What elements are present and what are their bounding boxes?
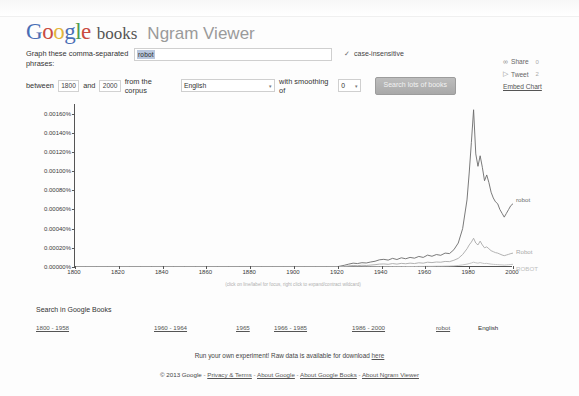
logo-letter-g2: g xyxy=(64,19,75,44)
search-books-language: English xyxy=(478,324,498,331)
y-axis-tick-label: 0.00140% xyxy=(44,130,71,136)
y-axis-tick xyxy=(72,209,75,210)
y-axis-tick xyxy=(72,152,75,153)
books-wordmark[interactable]: books xyxy=(97,24,138,44)
x-axis-tick-label: 1800 xyxy=(67,269,80,275)
corpus-select[interactable]: English ▾ xyxy=(181,79,275,92)
x-axis-tick-label: 1940 xyxy=(374,269,387,275)
logo-letter-o2: o xyxy=(53,19,64,44)
corpus-label: from the corpus xyxy=(125,77,174,95)
page-title: Ngram Viewer xyxy=(147,24,254,44)
search-books-links: 1800 - 19581960 - 196419651966 - 1985198… xyxy=(36,324,506,336)
phrases-input[interactable]: robot xyxy=(134,48,332,61)
smoothing-label: with smoothing of xyxy=(279,77,334,95)
chart-hint-text: (click on line/label for focus, right cl… xyxy=(74,282,512,287)
footer-link[interactable]: Privacy & Terms xyxy=(207,371,252,378)
series-label-robot[interactable]: Robot xyxy=(516,248,533,255)
series-line-robot[interactable] xyxy=(75,110,513,267)
y-axis-tick xyxy=(72,190,75,191)
y-axis-tick-label: 0.00100% xyxy=(44,168,71,174)
ngram-chart[interactable]: 0.00000%0.00020%0.00040%0.00060%0.00080%… xyxy=(26,104,546,294)
page-top-edge xyxy=(0,0,579,17)
tweet-button[interactable]: ▷ Tweet 2 xyxy=(503,70,575,78)
twitter-bird-icon: ▷ xyxy=(503,70,508,78)
x-axis-tick-label: 1820 xyxy=(111,269,124,275)
checkmark-icon: ✓ xyxy=(344,50,351,57)
phrases-input-value: robot xyxy=(137,50,155,59)
y-axis-tick xyxy=(72,114,75,115)
plot-area[interactable] xyxy=(74,104,512,267)
series-label-robot[interactable]: robot xyxy=(516,196,530,203)
case-insensitive-checkbox[interactable]: ✓ case-insensitive xyxy=(344,50,404,57)
x-axis-tick-label: 1860 xyxy=(199,269,212,275)
search-books-range-link[interactable]: 1966 - 1985 xyxy=(274,324,307,331)
chevron-down-icon: ▾ xyxy=(269,83,272,89)
footer-copyright: © 2013 Google xyxy=(160,371,202,378)
y-axis-tick-label: 0.00020% xyxy=(44,245,71,251)
y-axis-tick xyxy=(72,229,75,230)
google-logo[interactable]: Google xyxy=(26,20,91,43)
search-books-query-link[interactable]: robot xyxy=(436,324,450,331)
end-year-input[interactable]: 2000 xyxy=(99,80,120,92)
footer-link[interactable]: About Google xyxy=(257,371,295,378)
series-label-robot[interactable]: ROBOT xyxy=(516,265,538,272)
tweet-label: Tweet xyxy=(511,71,529,78)
y-axis-tick-label: 0.00060% xyxy=(44,206,71,212)
series-line-robot[interactable] xyxy=(75,238,513,267)
query-form: Graph these comma-separated phrases: rob… xyxy=(26,49,456,95)
share-label: Share xyxy=(511,58,529,65)
phrases-label: Graph these comma-separated phrases: xyxy=(26,49,134,69)
share-button[interactable]: ∞ Share 0 xyxy=(503,58,575,65)
search-button[interactable]: Search lots of books xyxy=(375,77,456,95)
footer-download-link[interactable]: here xyxy=(372,352,385,359)
start-year-input[interactable]: 1800 xyxy=(58,80,79,92)
x-axis-tick-label: 1980 xyxy=(462,269,475,275)
embed-chart-link[interactable]: Embed Chart xyxy=(503,83,542,90)
tweet-count: 2 xyxy=(536,71,539,77)
x-axis-tick-label: 1920 xyxy=(330,269,343,275)
options-row: between 1800 and 2000 from the corpus En… xyxy=(26,77,456,95)
ngram-viewer-page: Google books Ngram Viewer Graph these co… xyxy=(0,0,579,396)
and-label: and xyxy=(83,81,95,90)
smoothing-select[interactable]: 0 ▾ xyxy=(338,79,360,92)
footer-link[interactable]: About Ngram Viewer xyxy=(362,371,419,378)
share-count: 0 xyxy=(536,59,539,65)
x-axis-tick-label: 1960 xyxy=(418,269,431,275)
site-header: Google books Ngram Viewer xyxy=(26,20,255,44)
x-axis-labels: 1800182018401860188019001920194019601980… xyxy=(74,269,512,281)
search-books-title: Search in Google Books xyxy=(36,306,506,313)
chevron-down-icon: ▾ xyxy=(355,83,358,89)
search-books-range-link[interactable]: 1965 xyxy=(236,324,250,331)
y-axis-tick xyxy=(72,133,75,134)
case-insensitive-label: case-insensitive xyxy=(354,50,404,57)
y-axis-tick xyxy=(72,248,75,249)
x-axis-tick-label: 1880 xyxy=(243,269,256,275)
phrases-row: Graph these comma-separated phrases: rob… xyxy=(26,49,456,69)
plot-svg xyxy=(75,104,513,267)
logo-letter-e: e xyxy=(81,19,91,44)
y-axis-tick-label: 0.00160% xyxy=(44,111,71,117)
corpus-selected-value: English xyxy=(184,82,206,89)
y-axis-tick-label: 0.00120% xyxy=(44,149,71,155)
footer-legal: © 2013 Google - Privacy & Terms - About … xyxy=(0,371,579,378)
share-icon: ∞ xyxy=(503,58,508,65)
smoothing-selected-value: 0 xyxy=(341,82,345,89)
footer-link[interactable]: About Google Books xyxy=(300,371,357,378)
between-label: between xyxy=(26,81,54,90)
footer-experiment: Run your own experiment! Raw data is ava… xyxy=(0,352,579,359)
search-in-google-books: Search in Google Books 1800 - 19581960 -… xyxy=(36,306,506,336)
search-books-range-link[interactable]: 1986 - 2000 xyxy=(352,324,385,331)
social-sidebar: ∞ Share 0 ▷ Tweet 2 Embed Chart xyxy=(503,58,575,90)
y-axis-tick-label: 0.00080% xyxy=(44,187,71,193)
search-books-range-link[interactable]: 1960 - 1964 xyxy=(154,324,187,331)
search-books-range-link[interactable]: 1800 - 1958 xyxy=(36,324,69,331)
logo-letter-o1: o xyxy=(42,19,53,44)
y-axis-labels: 0.00000%0.00020%0.00040%0.00060%0.00080%… xyxy=(26,104,74,267)
x-axis-tick-label: 1840 xyxy=(155,269,168,275)
y-axis-tick xyxy=(72,171,75,172)
y-axis-tick-label: 0.00040% xyxy=(44,226,71,232)
logo-letter-g1: G xyxy=(26,19,42,44)
x-axis-tick-label: 1900 xyxy=(286,269,299,275)
footer-experiment-text: Run your own experiment! Raw data is ava… xyxy=(195,352,370,359)
